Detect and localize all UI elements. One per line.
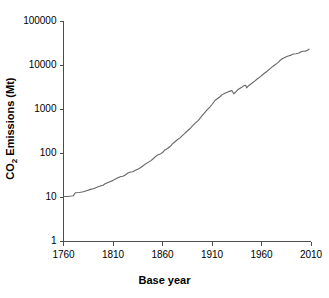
y-tick-label: 10000 xyxy=(29,59,57,70)
y-tick-label: 1000 xyxy=(34,103,56,114)
y-tick-label: 1 xyxy=(51,235,57,246)
chart-container: 110100100010000100000 176018101860191019… xyxy=(0,0,329,298)
x-tick-label: 2010 xyxy=(286,249,329,260)
x-tick-label: 1910 xyxy=(187,249,237,260)
x-axis-title: Base year xyxy=(0,274,329,286)
y-axis-title: CO2 Emissions (Mt) xyxy=(2,54,20,204)
x-tick-label: 1960 xyxy=(237,249,287,260)
y-tick-label: 100 xyxy=(40,147,57,158)
y-tick-label: 100000 xyxy=(23,15,56,26)
y-tick-label: 10 xyxy=(45,191,56,202)
x-tick-label: 1810 xyxy=(88,249,138,260)
x-tick-label: 1860 xyxy=(138,249,188,260)
y-axis-title-text: CO2 Emissions (Mt) xyxy=(3,78,18,180)
x-tick-label: 1760 xyxy=(39,249,89,260)
data-series-line xyxy=(64,49,310,196)
